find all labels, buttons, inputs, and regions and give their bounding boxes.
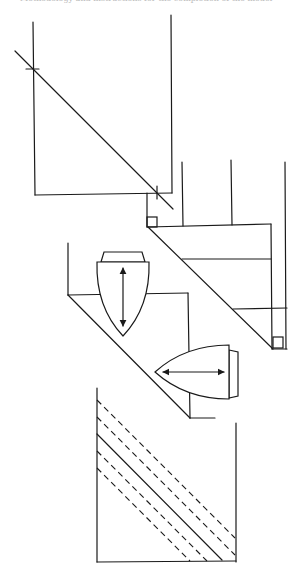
panel-2-stepped-diagonal bbox=[147, 160, 287, 349]
iron-horizontal-icon bbox=[155, 345, 238, 399]
right-angle-marker-icon bbox=[273, 337, 283, 348]
panel-1-rect-diagonal bbox=[15, 15, 173, 209]
panel-3-iron-fold bbox=[68, 243, 238, 562]
iron-vertical-icon bbox=[97, 252, 149, 336]
right-angle-marker-icon bbox=[147, 217, 157, 227]
diagram-canvas bbox=[0, 0, 295, 574]
panel-4-dashed-diagonals bbox=[97, 388, 236, 562]
diagram-stage: Methodology and instructions for the com… bbox=[0, 0, 295, 574]
